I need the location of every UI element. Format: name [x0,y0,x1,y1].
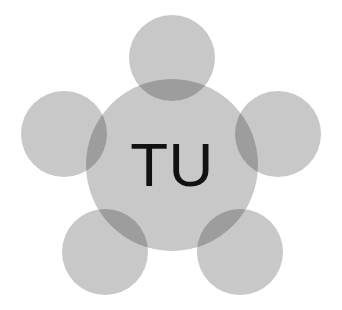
logo-figure: TU [0,0,342,310]
logo-svg: TU [0,0,342,310]
center-hub-label: TU [130,130,214,199]
